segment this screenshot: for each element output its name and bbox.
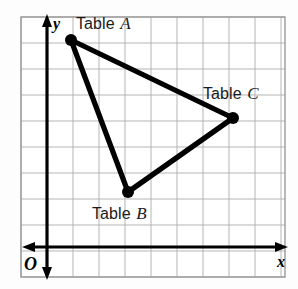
origin-label: O bbox=[24, 255, 37, 273]
label-table-a-letter: A bbox=[119, 14, 130, 33]
y-axis-label: y bbox=[53, 16, 60, 32]
label-table-b: Table B bbox=[92, 205, 147, 222]
point-table-c bbox=[227, 112, 239, 124]
label-table-a: Table A bbox=[76, 15, 131, 32]
label-table-a-prefix: Table bbox=[76, 15, 119, 32]
label-table-c-prefix: Table bbox=[203, 85, 246, 102]
plot-canvas bbox=[0, 0, 298, 289]
label-table-b-prefix: Table bbox=[92, 205, 135, 222]
x-axis-label: x bbox=[277, 254, 285, 270]
coordinate-grid-figure: Table A Table B Table C y x O bbox=[0, 0, 298, 289]
label-table-c-letter: C bbox=[246, 84, 258, 103]
label-table-b-letter: B bbox=[135, 204, 146, 223]
point-table-b bbox=[122, 186, 134, 198]
label-table-c: Table C bbox=[203, 85, 259, 102]
point-table-a bbox=[65, 34, 77, 46]
